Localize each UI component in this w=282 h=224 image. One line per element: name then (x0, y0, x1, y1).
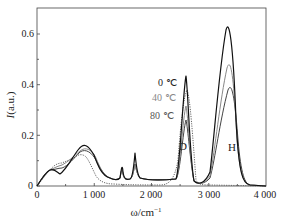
y-axis-label: I(a.u.) (4, 91, 17, 119)
series-reference-dotted (37, 90, 266, 186)
x-tick-4000: 4 000 (254, 189, 277, 200)
label-40c: 40 ℃ (152, 92, 176, 103)
x-axis-label: ω/cm−1 (130, 206, 162, 218)
x-tick-2000: 2 000 (140, 189, 163, 200)
y-axis (37, 34, 40, 186)
series-0c (37, 27, 266, 186)
x-tick-1000: 1 000 (83, 189, 106, 200)
x-tick-0: 0 (35, 189, 40, 200)
label-D-band: D (179, 140, 187, 152)
y-tick-04: 0.4 (22, 79, 35, 90)
y-tick-02: 0.2 (22, 130, 35, 141)
y-tick-0: 0 (28, 180, 33, 191)
label-0c: 0 ℃ (158, 77, 177, 88)
raman-spectrum-chart: 0 0.2 0.4 0.6 0 1 000 2 000 3 000 4 000 … (0, 0, 282, 224)
label-H-band: H (228, 141, 236, 153)
series-40c (37, 65, 266, 186)
label-80c: 80 ℃ (150, 110, 174, 121)
y-tick-06: 0.6 (22, 28, 35, 39)
x-axis (66, 183, 238, 186)
x-tick-3000: 3 000 (198, 189, 221, 200)
